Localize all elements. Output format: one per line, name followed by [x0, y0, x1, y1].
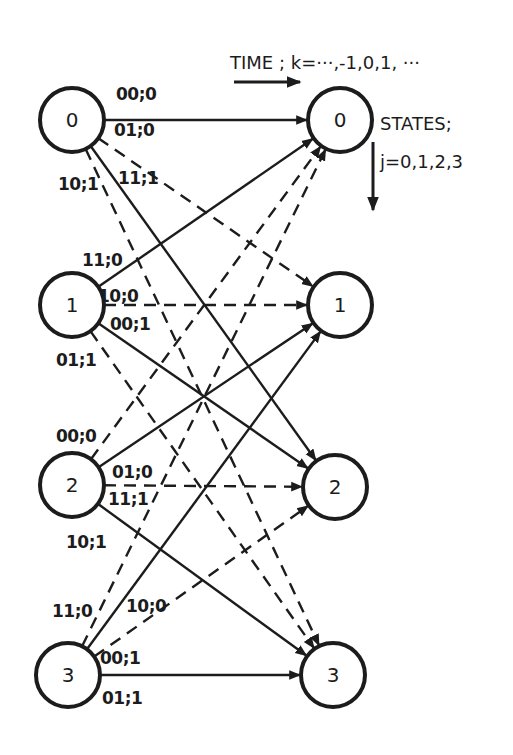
- edge-labels-layer: 00;001;011;110;111;010;000;101;100;001;0…: [52, 84, 167, 708]
- state-label: 1: [66, 293, 79, 317]
- edge-label-2-to-1: 01;0: [112, 462, 153, 482]
- edge-label-1-to-2: 00;1: [110, 314, 150, 334]
- right-state-node-3: 3: [301, 643, 365, 707]
- time-label: TIME ; k=···,-1,0,1, ···: [229, 52, 420, 73]
- right-state-node-0: 0: [308, 88, 372, 152]
- right-state-node-1: 1: [308, 273, 372, 337]
- trellis-diagram: 00;001;011;110;111;010;000;101;100;001;0…: [0, 0, 513, 755]
- edges-layer: [82, 120, 325, 675]
- state-label: 2: [66, 473, 79, 497]
- right-state-node-2: 2: [303, 455, 367, 519]
- edge-label-3-to-0: 11;0: [52, 601, 93, 621]
- left-state-node-0: 0: [40, 88, 104, 152]
- left-state-node-2: 2: [40, 453, 104, 517]
- state-label: 1: [334, 293, 347, 317]
- states-label: STATES;: [380, 113, 452, 134]
- left-state-node-3: 3: [36, 643, 100, 707]
- edge-label-0-to-3: 10;1: [58, 174, 98, 194]
- edge-label-1-to-3: 01;1: [56, 350, 96, 370]
- edge-label-2-to-2: 11;1: [108, 489, 148, 509]
- edge-3-to-0: [82, 150, 325, 647]
- state-label: 3: [62, 663, 75, 687]
- left-state-node-1: 1: [40, 273, 104, 337]
- states-sub-label: j=0,1,2,3: [379, 151, 463, 172]
- state-label: 3: [327, 663, 340, 687]
- edge-label-3-to-3: 01;1: [102, 688, 142, 708]
- edge-label-0-to-1: 01;0: [114, 120, 155, 140]
- edge-label-2-to-3: 10;1: [66, 532, 106, 552]
- edge-label-2-to-0: 00;0: [56, 426, 97, 446]
- edge-label-1-to-0: 11;0: [82, 250, 123, 270]
- edge-label-3-to-1: 10;0: [126, 596, 167, 616]
- edge-label-3-to-2: 00;1: [100, 648, 140, 668]
- state-label: 0: [66, 108, 79, 132]
- state-label: 2: [329, 475, 342, 499]
- edge-label-0-to-2: 11;1: [118, 168, 158, 188]
- state-label: 0: [334, 108, 347, 132]
- edge-label-0-to-0: 00;0: [116, 84, 157, 104]
- edge-2-to-2: [104, 485, 302, 487]
